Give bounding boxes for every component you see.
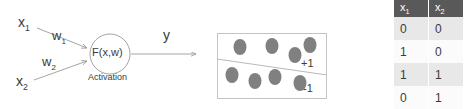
table-row: 1 0 (394, 40, 463, 63)
table-cell: 1 (394, 40, 429, 63)
data-point (226, 67, 239, 83)
data-point (266, 38, 279, 54)
diagram-canvas: x1 x2 w1 w2 F(x,w) Activation y +1 -1 x1 (0, 0, 475, 109)
table-row: 0 1 (394, 86, 463, 109)
table-cell: 0 (429, 17, 464, 40)
activation-caption: Activation (88, 73, 127, 82)
table-row: 1 1 (394, 63, 463, 86)
data-point (289, 47, 302, 63)
activation-function-label: F(x,w) (92, 47, 123, 58)
table-cell: 1 (429, 63, 464, 86)
data-point (269, 69, 282, 85)
class-negative-label: -1 (303, 83, 313, 94)
table-cell: 0 (394, 86, 429, 109)
weight-1-label: w1 (52, 29, 66, 46)
column-header-x1: x1 (394, 0, 429, 17)
weight-2-label: w2 (42, 55, 56, 72)
truth-table-container: x1 x2 0 0 1 0 1 1 0 1 (394, 0, 463, 109)
table-cell: 0 (429, 40, 464, 63)
table-header-row: x1 x2 (394, 0, 463, 17)
table-cell: 0 (394, 17, 429, 40)
data-point (249, 73, 262, 89)
table-row: 0 0 (394, 17, 463, 40)
output-label: y (163, 28, 170, 42)
column-header-x2: x2 (429, 0, 464, 17)
table-cell: 1 (429, 86, 464, 109)
data-point (234, 39, 247, 55)
input-1-label: x1 (18, 15, 30, 32)
data-point (304, 37, 317, 53)
table-cell: 1 (394, 63, 429, 86)
truth-table: x1 x2 0 0 1 0 1 1 0 1 (394, 0, 463, 109)
linear-separability-panel: +1 -1 (217, 33, 327, 99)
input-2-label: x2 (16, 74, 28, 91)
class-positive-label: +1 (301, 58, 314, 69)
